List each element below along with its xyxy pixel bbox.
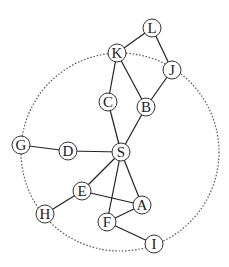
node-label: D [63, 143, 74, 159]
node-s: S [112, 143, 130, 161]
node-c: C [99, 93, 117, 111]
node-label: S [117, 144, 125, 160]
node-b: B [137, 98, 155, 116]
node-i: I [145, 235, 163, 253]
node-h: H [36, 205, 54, 223]
graph-svg: LKJCBGDSEAHFI [0, 0, 229, 267]
node-l: L [143, 19, 161, 37]
node-label: A [137, 197, 148, 213]
node-label: G [16, 137, 27, 153]
node-label: K [112, 45, 123, 61]
node-e: E [73, 182, 91, 200]
nodes-group: LKJCBGDSEAHFI [12, 19, 181, 253]
node-label: F [103, 214, 111, 230]
node-label: B [141, 99, 151, 115]
node-f: F [98, 213, 116, 231]
node-label: I [152, 236, 157, 252]
edge-s-f [107, 152, 121, 222]
node-d: D [59, 142, 77, 160]
node-g: G [12, 136, 30, 154]
node-label: H [40, 206, 51, 222]
node-label: J [169, 62, 175, 78]
node-label: E [77, 183, 86, 199]
node-j: J [163, 61, 181, 79]
node-k: K [108, 44, 126, 62]
graph-diagram: LKJCBGDSEAHFI [0, 0, 229, 267]
node-label: L [147, 20, 156, 36]
node-a: A [133, 196, 151, 214]
node-label: C [103, 94, 113, 110]
